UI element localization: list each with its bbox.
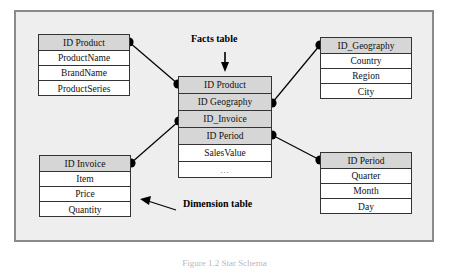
table-period-field-month: Month — [321, 184, 411, 199]
table-facts-key-invoice: ID_Invoice — [179, 111, 271, 128]
table-facts-key-product: ID Product — [179, 77, 271, 94]
diagram-canvas: ID Product ProductName BrandName Product… — [0, 0, 449, 275]
table-product-field-productname: ProductName — [39, 51, 129, 66]
table-invoice[interactable]: ID Invoice Item Price Quantity — [39, 155, 131, 217]
table-period[interactable]: ID Period Quarter Month Day — [320, 152, 412, 214]
table-product-field-productseries: ProductSeries — [39, 81, 129, 96]
dimension-table-note: Dimension table — [183, 198, 252, 209]
table-facts[interactable]: ID Product ID Geography ID_Invoice ID Pe… — [178, 76, 272, 178]
table-invoice-field-quantity: Quantity — [40, 202, 130, 217]
table-geography-header: ID_Geography — [321, 38, 411, 54]
figure-caption: Figure 1.2 Star Schema — [0, 258, 449, 268]
table-period-field-quarter: Quarter — [321, 169, 411, 184]
table-facts-measure-more: ... — [179, 162, 271, 179]
table-geography[interactable]: ID_Geography Country Region City — [320, 37, 412, 99]
table-invoice-field-item: Item — [40, 172, 130, 187]
table-product-field-brandname: BrandName — [39, 66, 129, 81]
table-facts-key-period: ID Period — [179, 128, 271, 145]
table-geography-field-city: City — [321, 84, 411, 99]
table-geography-field-country: Country — [321, 54, 411, 69]
table-product-header: ID Product — [39, 35, 129, 51]
table-facts-measure-salesvalue: SalesValue — [179, 145, 271, 162]
table-geography-field-region: Region — [321, 69, 411, 84]
table-invoice-header: ID Invoice — [40, 156, 130, 172]
table-period-header: ID Period — [321, 153, 411, 169]
table-period-field-day: Day — [321, 199, 411, 214]
facts-table-note: Facts table — [191, 33, 237, 44]
table-invoice-field-price: Price — [40, 187, 130, 202]
table-facts-key-geography: ID Geography — [179, 94, 271, 111]
table-product[interactable]: ID Product ProductName BrandName Product… — [38, 34, 130, 96]
